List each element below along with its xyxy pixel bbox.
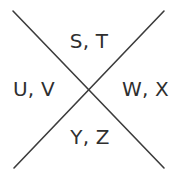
cross-diagram: S, T U, V W, X Y, Z xyxy=(0,0,182,181)
quadrant-label-right: W, X xyxy=(122,79,169,99)
quadrant-label-bottom: Y, Z xyxy=(0,127,182,147)
quadrant-label-top: S, T xyxy=(0,31,182,51)
quadrant-label-left: U, V xyxy=(13,79,55,99)
